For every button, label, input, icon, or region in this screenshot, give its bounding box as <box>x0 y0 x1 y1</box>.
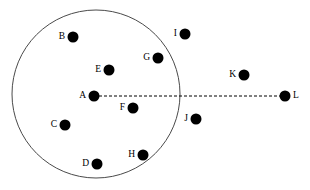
point-k: K <box>229 69 249 80</box>
point-label-a: A <box>79 90 86 100</box>
point-b: B <box>59 31 79 42</box>
point-f: F <box>120 102 139 113</box>
point-label-e: E <box>95 64 101 74</box>
point-a: A <box>79 90 99 101</box>
point-dot-c <box>60 120 71 131</box>
point-label-l: L <box>293 90 299 100</box>
point-dot-a <box>89 91 100 102</box>
point-j: J <box>184 113 201 124</box>
point-label-c: C <box>51 119 57 129</box>
point-label-k: K <box>229 69 236 79</box>
point-label-j: J <box>184 113 188 123</box>
point-dot-k <box>239 70 250 81</box>
point-label-g: G <box>143 52 150 62</box>
point-label-f: F <box>120 102 125 112</box>
point-g: G <box>143 52 163 63</box>
point-dot-f <box>128 103 139 114</box>
point-dot-b <box>68 32 79 43</box>
diagram-svg: ABCDEFGHIJKL <box>0 0 310 190</box>
point-c: C <box>51 119 71 130</box>
point-dot-e <box>104 65 115 76</box>
point-dot-d <box>92 159 103 170</box>
point-i: I <box>174 28 191 39</box>
point-label-i: I <box>174 28 177 38</box>
point-label-b: B <box>59 31 65 41</box>
point-dot-h <box>138 150 149 161</box>
diagram-canvas: ABCDEFGHIJKL <box>0 0 310 190</box>
points-layer: ABCDEFGHIJKL <box>51 28 299 169</box>
point-dot-g <box>153 53 164 64</box>
point-l: L <box>280 90 300 101</box>
point-d: D <box>82 158 102 169</box>
point-dot-j <box>191 114 202 125</box>
point-h: H <box>128 149 148 160</box>
point-e: E <box>95 64 114 75</box>
point-dot-l <box>280 91 291 102</box>
point-label-d: D <box>82 158 89 168</box>
point-label-h: H <box>128 149 135 159</box>
point-dot-i <box>180 29 191 40</box>
